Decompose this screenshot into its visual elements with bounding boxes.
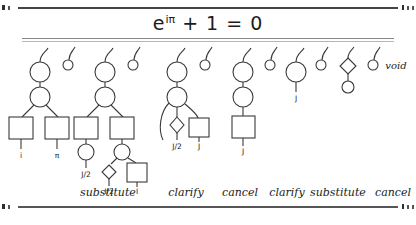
tree-4-node-square — [232, 116, 255, 138]
tree-3-root-stem — [177, 48, 185, 62]
tree-2-node-square-left — [74, 117, 98, 139]
tree-5-side-stem — [322, 47, 328, 60]
tree-1-node-circle-side — [63, 60, 73, 70]
screenshot-root: eiπ + 1 = 0 i π — [0, 0, 416, 225]
tree-6-side-stem — [374, 47, 380, 60]
top-left-edge-dots — [2, 5, 10, 10]
tree-3: J/2 J — [160, 47, 212, 151]
tree-2: J/2 J/2 J — [74, 47, 147, 194]
double-rule-line-2 — [22, 41, 394, 42]
tree-2-node-square-bottom — [127, 163, 147, 182]
tree-6-node-diamond — [340, 58, 356, 74]
edge-dot — [412, 6, 414, 10]
caption-cancel-2: cancel — [360, 186, 416, 199]
edge-dot — [8, 6, 10, 10]
tree-3-node-circle-side — [200, 60, 210, 70]
tree-1-label-right: π — [55, 151, 60, 160]
tree-3-node-circle-second — [167, 87, 187, 107]
tree-2-edge-right — [111, 105, 123, 117]
tree-5-node-circle-side — [316, 60, 326, 70]
tree-2-side-stem — [134, 47, 140, 60]
edge-dot — [412, 205, 414, 209]
tree-5: J — [286, 47, 328, 103]
title-base: e — [153, 12, 166, 34]
edge-dot — [402, 204, 405, 209]
edge-dot — [2, 5, 5, 10]
tree-1-node-square-right — [45, 117, 69, 139]
tree-3-node-diamond — [170, 117, 184, 133]
tree-2-node-circle-root — [95, 62, 115, 82]
edge-dot — [407, 6, 409, 10]
page-title: eiπ + 1 = 0 — [0, 12, 416, 34]
tree-2-node-circle-right-leaf — [114, 144, 130, 160]
tree-3-edge-loop-left — [160, 103, 169, 140]
tree-1-label-left: i — [20, 151, 22, 160]
tree-5-root-stem — [296, 48, 304, 62]
tree-2-root-stem — [105, 48, 113, 62]
tree-2-node-square-right — [110, 117, 134, 139]
tree-4-label: J — [241, 147, 244, 156]
tree-6 — [340, 47, 380, 93]
bottom-right-edge-dots — [402, 204, 415, 209]
tree-6-node-circle-bottom — [342, 81, 354, 93]
tree-1-edge-left — [22, 105, 34, 117]
edge-dot — [407, 205, 409, 209]
tree-1: i π — [9, 47, 75, 160]
caption-substitute-1: substitute — [58, 186, 158, 199]
edge-dot — [8, 205, 10, 209]
tree-5-node-circle-root — [286, 62, 306, 82]
top-rule — [18, 7, 398, 9]
title-double-rule — [22, 38, 394, 42]
tree-4-node-circle-second — [233, 87, 253, 107]
tree-4-root-stem — [243, 48, 251, 62]
tree-1-edge-right — [46, 105, 58, 117]
double-rule-line-1 — [22, 38, 394, 39]
tree-2-edge-to-square — [128, 158, 136, 163]
title-exponent: iπ — [165, 13, 175, 26]
tree-4-node-circle-side — [265, 60, 275, 70]
bottom-left-edge-dots — [2, 204, 10, 209]
tree-4-node-circle-root — [233, 62, 253, 82]
tree-1-node-square-left — [9, 117, 33, 139]
edge-dot — [402, 5, 405, 10]
tree-3-node-square — [189, 118, 209, 137]
tree-2-edge-to-diamond — [111, 158, 117, 164]
edge-dot — [2, 204, 5, 209]
tree-1-node-circle-root — [30, 62, 50, 82]
title-rest: + 1 = 0 — [175, 12, 263, 34]
bottom-rule — [18, 206, 398, 208]
tree-1-root-stem — [40, 48, 48, 62]
tree-3-node-circle-root — [167, 62, 187, 82]
tree-4-side-stem — [271, 47, 277, 60]
tree-2-node-diamond — [102, 165, 116, 179]
tree-3-side-stem — [206, 47, 212, 60]
tree-2-node-circle-left-leaf — [78, 144, 94, 160]
tree-5-label: J — [294, 94, 297, 103]
tree-1-node-circle-second — [30, 87, 50, 107]
tree-3-label-right: J — [197, 142, 200, 151]
top-right-edge-dots — [402, 5, 415, 10]
tree-2-node-circle-side — [128, 60, 138, 70]
tree-6-node-circle-side — [368, 60, 378, 70]
derivation-diagram: i π J/2 J/2 J — [0, 44, 416, 194]
tree-2-node-circle-second — [95, 87, 115, 107]
tree-1-side-stem — [69, 47, 75, 60]
tree-3-edge-to-square — [185, 104, 198, 118]
tree-2-label-left: J/2 — [80, 170, 91, 179]
caption-row: substitute clarify cancel clarify substi… — [0, 186, 416, 204]
tree-4: J — [232, 47, 277, 156]
tree-2-edge-left — [87, 105, 99, 117]
tree-6-root-stem — [348, 47, 354, 58]
void-label: void — [385, 60, 406, 71]
tree-3-label-left: J/2 — [171, 142, 182, 151]
